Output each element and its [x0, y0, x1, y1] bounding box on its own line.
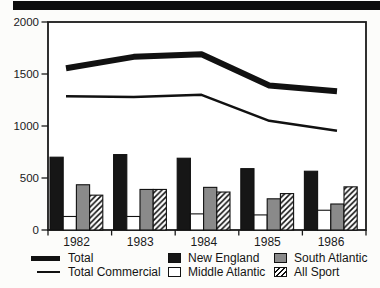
bar-middle-atlantic-1982 — [63, 216, 76, 230]
legend-item-all-sport: All Sport — [274, 265, 367, 279]
bar-middle-atlantic-1986 — [318, 210, 331, 230]
x-tick-label: 1984 — [190, 235, 217, 249]
bar-new-england-1983 — [114, 155, 127, 230]
legend-mid-column: New England Middle Atlantic — [168, 251, 265, 279]
bar-middle-atlantic-1984 — [190, 214, 203, 230]
legend-label-all-sport: All Sport — [294, 265, 339, 279]
legend-label-south-atlantic: South Atlantic — [294, 251, 367, 265]
bar-all-sport-1982 — [90, 195, 103, 230]
bar-new-england-1985 — [241, 169, 254, 230]
y-tick-label: 500 — [20, 172, 39, 184]
legend-label-total-commercial: Total Commercial — [68, 265, 161, 279]
legend: Total Total Commercial New England Middl… — [0, 251, 380, 283]
legend-item-new-england: New England — [168, 251, 265, 265]
legend-item-middle-atlantic: Middle Atlantic — [168, 265, 265, 279]
legend-right-column: South Atlantic All Sport — [274, 251, 367, 279]
bar-south-atlantic-1982 — [76, 185, 89, 230]
bar-all-sport-1986 — [344, 187, 357, 230]
page: { "banner": { "color": "#0d0d0d" }, "cha… — [0, 0, 380, 288]
chart: 050010001500200019821983198419851986 — [0, 0, 380, 250]
legend-label-total: Total — [68, 251, 93, 265]
gray-square-swatch — [274, 253, 287, 263]
bar-all-sport-1984 — [217, 192, 230, 230]
y-tick-label: 1500 — [13, 68, 39, 80]
legend-label-new-england: New England — [188, 251, 259, 265]
bar-all-sport-1983 — [153, 189, 166, 230]
thick-line-swatch — [29, 256, 60, 261]
legend-item-total-commercial: Total Commercial — [29, 265, 161, 279]
legend-item-south-atlantic: South Atlantic — [274, 251, 367, 265]
y-tick-label: 1000 — [13, 120, 39, 132]
bar-new-england-1984 — [177, 158, 190, 230]
white-square-swatch — [168, 267, 181, 277]
bar-middle-atlantic-1985 — [254, 215, 267, 230]
x-tick-label: 1986 — [318, 235, 345, 249]
bar-south-atlantic-1984 — [204, 187, 217, 230]
legend-lines-column: Total Total Commercial — [29, 251, 161, 279]
thin-line-swatch — [29, 271, 60, 274]
hatch-square-swatch — [274, 267, 287, 277]
y-tick-label: 0 — [33, 224, 39, 236]
bar-new-england-1986 — [304, 171, 317, 230]
bar-south-atlantic-1985 — [267, 199, 280, 230]
legend-item-total: Total — [29, 251, 161, 265]
x-tick-label: 1982 — [63, 235, 90, 249]
bar-middle-atlantic-1983 — [127, 216, 140, 230]
y-tick-label: 2000 — [13, 16, 39, 28]
x-tick-label: 1985 — [254, 235, 281, 249]
bar-south-atlantic-1986 — [331, 204, 344, 230]
bar-new-england-1982 — [50, 157, 63, 230]
bar-south-atlantic-1983 — [140, 189, 153, 230]
black-square-swatch — [168, 253, 181, 263]
legend-label-middle-atlantic: Middle Atlantic — [188, 265, 265, 279]
chart-svg: 050010001500200019821983198419851986 — [0, 0, 380, 250]
x-tick-label: 1983 — [127, 235, 154, 249]
bar-all-sport-1985 — [280, 194, 293, 230]
